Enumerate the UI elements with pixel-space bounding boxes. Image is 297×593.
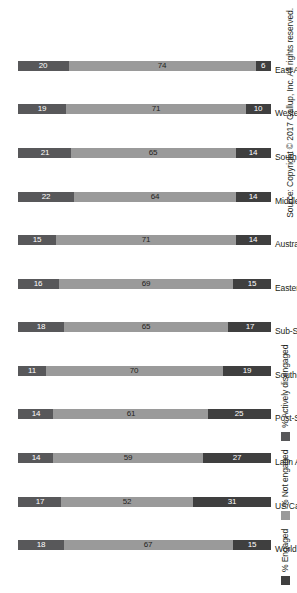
bar-segment: 15 — [233, 279, 271, 289]
legend-item-2: % Actively disengaged — [281, 345, 290, 441]
bar-value-label: 10 — [254, 105, 263, 113]
bar-column: 67420East Asia — [18, 44, 271, 88]
stacked-bar: 256114 — [18, 409, 271, 419]
stacked-bar: 107119 — [18, 104, 271, 114]
bar-column: 275914Latin America/Caribbean — [18, 436, 271, 480]
bar-value-label: 69 — [142, 280, 151, 288]
bar-value-label: 15 — [248, 541, 257, 549]
bar-column: 256114Post-Soviet Eurasia — [18, 393, 271, 437]
bar-segment: 14 — [236, 148, 271, 158]
chart-plot-area: 156718World315217US/Canada275914Latin Am… — [18, 44, 271, 567]
stacked-bar: 146521 — [18, 148, 271, 158]
category-label: Post-Soviet Eurasia — [275, 414, 297, 423]
bar-segment: 65 — [71, 148, 235, 158]
bar-value-label: 11 — [28, 367, 36, 375]
bar-segment: 14 — [18, 409, 53, 419]
bar-column: 176518Sub-Saharan Africa — [18, 306, 271, 350]
bar-column: 107119Western Europe — [18, 88, 271, 132]
bar-value-label: 19 — [38, 105, 47, 113]
bar-value-label: 52 — [123, 498, 132, 506]
bar-value-label: 61 — [126, 410, 135, 418]
bar-segment: 74 — [69, 61, 256, 71]
bar-segment: 18 — [18, 322, 64, 332]
bar-segment: 71 — [66, 104, 246, 114]
bar-value-label: 14 — [31, 410, 40, 418]
bar-column: 147115Australia/New Zealand — [18, 218, 271, 262]
bar-segment: 67 — [64, 540, 234, 550]
stacked-bar: 275914 — [18, 453, 271, 463]
bar-segment: 15 — [233, 540, 271, 550]
bar-value-label: 16 — [34, 280, 43, 288]
bar-segment: 19 — [223, 366, 271, 376]
bar-value-label: 14 — [249, 236, 258, 244]
bar-value-label: 17 — [35, 498, 44, 506]
bar-value-label: 71 — [142, 236, 151, 244]
stacked-bar: 315217 — [18, 497, 271, 507]
bar-segment: 65 — [64, 322, 228, 332]
category-label: Eastern Europe — [275, 284, 297, 293]
stacked-bar: 197011 — [18, 366, 271, 376]
source-note: Source: Copyright © 2017 Gallup, Inc. Al… — [285, 8, 295, 218]
bar-segment: 14 — [236, 192, 271, 202]
bar-value-label: 14 — [249, 193, 258, 201]
bar-segment: 18 — [18, 540, 64, 550]
legend-swatch-icon — [281, 576, 290, 585]
chart-figure: % Engaged% Not engaged% Actively disenga… — [0, 0, 297, 593]
category-label: Sub-Saharan Africa — [275, 327, 297, 336]
bar-column: 156718World — [18, 523, 271, 567]
legend-swatch-icon — [281, 511, 290, 520]
bar-value-label: 64 — [150, 193, 159, 201]
bar-value-label: 21 — [40, 149, 49, 157]
bar-value-label: 14 — [31, 454, 40, 462]
bar-column: 146422Middle East/North Africa — [18, 175, 271, 219]
bar-segment: 11 — [18, 366, 46, 376]
bar-segment: 17 — [18, 497, 61, 507]
bar-column: 315217US/Canada — [18, 480, 271, 524]
bar-value-label: 65 — [142, 323, 151, 331]
bar-segment: 61 — [53, 409, 207, 419]
bar-segment: 70 — [46, 366, 223, 376]
bar-segment: 14 — [236, 235, 271, 245]
stacked-bar: 146422 — [18, 192, 271, 202]
bar-value-label: 19 — [243, 367, 252, 375]
stacked-bar: 176518 — [18, 322, 271, 332]
category-label: Australia/New Zealand — [275, 240, 297, 249]
bar-value-label: 15 — [33, 236, 42, 244]
bar-segment: 15 — [18, 235, 56, 245]
bar-value-label: 15 — [248, 280, 257, 288]
bar-value-label: 67 — [144, 541, 153, 549]
bar-segment: 20 — [18, 61, 69, 71]
bar-value-label: 17 — [245, 323, 254, 331]
bar-segment: 59 — [53, 453, 202, 463]
bar-segment: 71 — [56, 235, 236, 245]
legend-item-0: % Engaged — [281, 529, 290, 585]
stacked-bar: 156916 — [18, 279, 271, 289]
stacked-bar: 147115 — [18, 235, 271, 245]
stacked-bar: 156718 — [18, 540, 271, 550]
bar-segment: 19 — [18, 104, 66, 114]
bar-segment: 10 — [246, 104, 271, 114]
category-label: Latin America/Caribbean — [275, 458, 297, 467]
bar-value-label: 14 — [249, 149, 258, 157]
bar-value-label: 71 — [152, 105, 161, 113]
bar-value-label: 20 — [39, 62, 48, 70]
bar-segment: 16 — [18, 279, 58, 289]
bar-value-label: 31 — [228, 498, 237, 506]
bar-value-label: 70 — [130, 367, 139, 375]
bar-segment: 27 — [203, 453, 271, 463]
bar-segment: 22 — [18, 192, 74, 202]
legend-swatch-icon — [281, 432, 290, 441]
bar-segment: 52 — [61, 497, 193, 507]
bar-value-label: 25 — [235, 410, 244, 418]
bar-segment: 17 — [228, 322, 271, 332]
bar-value-label: 74 — [158, 62, 167, 70]
bar-segment: 6 — [256, 61, 271, 71]
bar-column: 156916Eastern Europe — [18, 262, 271, 306]
category-label: World — [275, 545, 297, 554]
category-label: Southeast Asia — [275, 371, 297, 380]
bar-segment: 69 — [59, 279, 234, 289]
bar-segment: 31 — [193, 497, 271, 507]
bar-value-label: 18 — [37, 323, 46, 331]
bar-value-label: 59 — [124, 454, 133, 462]
bar-value-label: 6 — [261, 62, 265, 70]
